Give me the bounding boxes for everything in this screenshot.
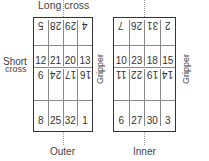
page-cell: 24 [49, 69, 64, 100]
inner-row-4: 6 27 30 3 [114, 100, 175, 126]
page-cell: 25 [49, 100, 64, 126]
outer-row-1: 5 28 29 4 [34, 20, 92, 45]
page-cell: 14 [161, 69, 176, 100]
page-cell: 1 [78, 100, 92, 126]
outer-row-4: 8 25 32 1 [34, 100, 92, 126]
page-cell: 3 [161, 100, 176, 126]
page-cell: 15 [161, 45, 176, 66]
page-cell: 29 [64, 20, 79, 45]
page-cell: 6 [114, 100, 130, 126]
page-cell: 28 [49, 20, 64, 45]
inner-imposition-grid: 7 26 31 2 10 23 18 15 11 22 19 14 6 27 3… [113, 17, 176, 132]
page-cell: 8 [34, 100, 49, 126]
row-divider [34, 67, 92, 68]
page-cell: 10 [114, 45, 130, 66]
page-cell: 27 [130, 100, 146, 126]
page-cell: 21 [49, 45, 64, 66]
page-cell: 5 [34, 20, 49, 45]
page-cell: 20 [64, 45, 79, 66]
page-cell: 26 [130, 20, 146, 45]
page-cell: 22 [130, 69, 146, 100]
page-cell: 23 [130, 45, 146, 66]
page-cell: 31 [145, 20, 161, 45]
page-cell: 7 [114, 20, 130, 45]
page-cell: 17 [64, 69, 79, 100]
page-cell: 19 [145, 69, 161, 100]
long-cross-fold-line-top [63, 0, 64, 17]
inner-fold-line-top [144, 0, 145, 17]
page-cell: 12 [34, 45, 49, 66]
gripper-label-right: Gripper [181, 51, 191, 87]
page-cell: 30 [145, 100, 161, 126]
page-cell: 9 [34, 69, 49, 100]
short-cross-label-line2: cross [5, 65, 27, 74]
row-divider [114, 67, 175, 68]
inner-row-3: 11 22 19 14 [114, 69, 175, 100]
page-cell: 32 [64, 100, 79, 126]
page-cell: 2 [161, 20, 176, 45]
inner-row-2: 10 23 18 15 [114, 45, 175, 66]
page-cell: 18 [145, 45, 161, 66]
page-cell: 4 [78, 20, 92, 45]
page-cell: 16 [78, 69, 92, 100]
outer-imposition-grid: 5 28 29 4 12 21 20 13 9 24 17 16 8 25 32… [33, 17, 93, 132]
outer-row-3: 9 24 17 16 [34, 69, 92, 100]
gripper-label-left: Gripper [95, 51, 105, 87]
outer-label: Outer [50, 146, 75, 157]
outer-row-2: 12 21 20 13 [34, 45, 92, 66]
outer-fold-line [63, 132, 64, 145]
inner-row-1: 7 26 31 2 [114, 20, 175, 45]
inner-label: Inner [133, 146, 156, 157]
inner-fold-line-bottom [144, 132, 145, 145]
page-cell: 11 [114, 69, 130, 100]
page-cell: 13 [78, 45, 92, 66]
